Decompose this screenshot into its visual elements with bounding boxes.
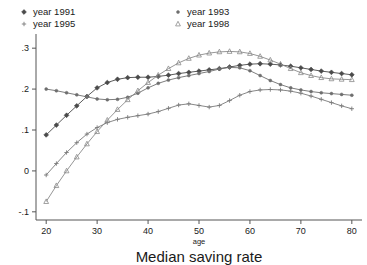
marker-plus [309, 94, 313, 98]
marker-dot [45, 88, 48, 91]
legend-label: year 1993 [187, 6, 229, 17]
marker-dot [55, 89, 58, 92]
marker-plus [288, 89, 292, 93]
marker-plus [339, 104, 343, 108]
marker-plus [217, 103, 221, 107]
marker-plus [258, 88, 262, 92]
marker-dot [116, 98, 119, 101]
marker-plus [136, 113, 140, 117]
marker-diamond [135, 75, 140, 80]
marker-dot [208, 70, 211, 73]
marker-dot [330, 92, 333, 95]
marker-plus [268, 87, 272, 91]
marker-dot [340, 93, 343, 96]
legend-label: year 1995 [33, 18, 75, 29]
legend-entry-year-1998[interactable]: year 1998 [176, 18, 230, 29]
marker-plus [197, 103, 201, 107]
marker-diamond [125, 75, 130, 80]
marker-dot [299, 88, 302, 91]
x-tick-label: 80 [347, 226, 357, 236]
marker-dot [198, 72, 201, 75]
marker-plus [146, 112, 150, 116]
x-tick-label: 70 [296, 226, 306, 236]
marker-triangle [176, 21, 181, 26]
marker-dot [320, 91, 323, 94]
marker-dot [238, 66, 241, 69]
marker-dot [269, 79, 272, 82]
marker-plus [176, 103, 180, 107]
x-tick-label: 30 [92, 226, 102, 236]
marker-plus [22, 22, 26, 26]
marker-plus [187, 102, 191, 106]
marker-diamond [105, 80, 110, 85]
marker-diamond [115, 77, 120, 82]
legend-entry-year-1993[interactable]: year 1993 [177, 6, 230, 17]
marker-dot [228, 66, 231, 69]
marker-dot [310, 90, 313, 93]
marker-diamond [146, 75, 151, 80]
marker-dot [65, 91, 68, 94]
median-saving-rate-chart: -.10.1.2.320304050607080ageMedian saving… [0, 0, 367, 265]
marker-dot [218, 68, 221, 71]
marker-diamond [329, 70, 334, 75]
marker-dot [279, 83, 282, 86]
marker-dot [147, 86, 150, 89]
marker-diamond [309, 67, 314, 72]
legend-entry-year-1995[interactable]: year 1995 [22, 18, 75, 29]
marker-dot [157, 82, 160, 85]
marker-dot [106, 98, 109, 101]
marker-dot [187, 74, 190, 77]
marker-plus [238, 93, 242, 97]
series-line [46, 90, 352, 176]
chart-title: Median saving rate [136, 248, 263, 265]
marker-plus [350, 107, 354, 111]
marker-dot [289, 86, 292, 89]
y-tick-label: .2 [21, 84, 29, 94]
y-tick-label: .3 [21, 43, 29, 53]
marker-diamond [339, 71, 344, 76]
marker-diamond [22, 10, 27, 15]
marker-plus [115, 117, 119, 121]
x-tick-label: 20 [41, 226, 51, 236]
marker-plus [207, 105, 211, 109]
marker-dot [96, 97, 99, 100]
marker-dot [85, 95, 88, 98]
marker-plus [248, 89, 252, 93]
marker-plus [227, 98, 231, 102]
marker-dot [259, 74, 262, 77]
marker-diamond [258, 61, 263, 66]
marker-diamond [248, 62, 253, 67]
x-tick-label: 40 [143, 226, 153, 236]
marker-dot [75, 93, 78, 96]
x-axis-label: age [193, 237, 206, 246]
marker-diamond [166, 73, 171, 78]
marker-diamond [268, 62, 273, 67]
legend-entry-year-1991[interactable]: year 1991 [22, 6, 76, 17]
y-tick-label: 0 [24, 166, 29, 176]
marker-plus [156, 109, 160, 113]
marker-plus [299, 91, 303, 95]
marker-dot [248, 69, 251, 72]
marker-diamond [176, 71, 181, 76]
marker-plus [329, 100, 333, 104]
marker-dot [177, 76, 180, 79]
x-tick-label: 50 [194, 226, 204, 236]
legend-label: year 1998 [187, 18, 229, 29]
marker-diamond [319, 69, 324, 74]
x-tick-label: 60 [245, 226, 255, 236]
marker-plus [278, 88, 282, 92]
marker-plus [125, 115, 129, 119]
y-tick-label: -.1 [18, 207, 29, 217]
series-year-1995 [44, 87, 354, 177]
marker-dot [350, 94, 353, 97]
y-tick-label: .1 [21, 125, 29, 135]
chart-figure: -.10.1.2.320304050607080ageMedian saving… [0, 0, 367, 265]
marker-plus [166, 106, 170, 110]
marker-plus [319, 97, 323, 101]
marker-dot [177, 11, 180, 14]
legend-label: year 1991 [33, 6, 75, 17]
marker-dot [167, 79, 170, 82]
